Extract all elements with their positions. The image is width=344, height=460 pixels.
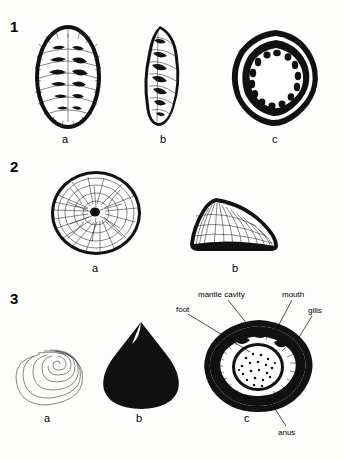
figure-plate: 1 [0, 0, 344, 460]
annotation-leader-lines [0, 0, 344, 460]
